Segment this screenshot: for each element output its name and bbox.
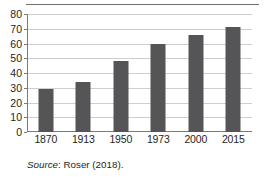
x-axis-tick-label: 1950: [109, 134, 132, 145]
y-axis-tick-label: 20: [0, 97, 22, 108]
bar: [76, 82, 91, 132]
chart-axes: [27, 14, 252, 132]
bar: [188, 35, 203, 132]
bar-series: [27, 14, 252, 132]
x-axis-tick-label: 2000: [184, 134, 207, 145]
x-axis-tick-label: 1973: [147, 134, 170, 145]
source-text: : Roser (2018).: [58, 159, 123, 170]
bar: [38, 89, 53, 133]
bar: [113, 61, 128, 132]
bar: [226, 27, 241, 132]
x-axis-tick-label: 1870: [34, 134, 57, 145]
y-axis-tick-label: 30: [0, 83, 22, 94]
y-axis-tick-mark: [24, 132, 27, 133]
y-axis-tick-labels: 01020304050607080: [0, 14, 22, 132]
x-axis-tick-label: 2015: [222, 134, 245, 145]
y-axis-tick-label: 0: [0, 127, 22, 138]
y-axis-tick-label: 60: [0, 38, 22, 49]
bar: [151, 44, 166, 132]
y-axis-tick-label: 10: [0, 112, 22, 123]
top-divider-rule: [26, 4, 259, 5]
x-axis-tick-label: 1913: [72, 134, 95, 145]
x-axis-tick-labels: 187019131950197320002015: [27, 134, 252, 148]
source-label: Source: [27, 159, 58, 170]
y-axis-tick-label: 70: [0, 24, 22, 35]
y-axis-tick-label: 40: [0, 68, 22, 79]
y-axis-tick-label: 80: [0, 9, 22, 20]
source-note: Source: Roser (2018).: [27, 160, 123, 170]
figure-container: 01020304050607080 1870191319501973200020…: [0, 0, 265, 185]
y-axis-tick-label: 50: [0, 53, 22, 64]
plot-area: 01020304050607080 1870191319501973200020…: [0, 14, 265, 144]
